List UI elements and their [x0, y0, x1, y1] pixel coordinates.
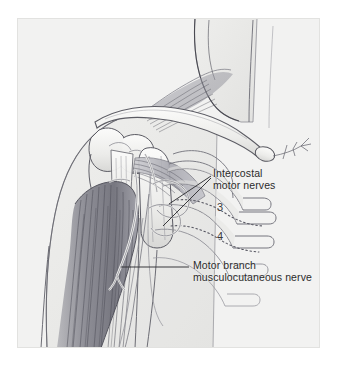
rib-number-3: 3 [217, 202, 223, 213]
anatomical-illustration-figure: Intercostal motor nerves Motor branch mu… [0, 0, 337, 365]
label-motor-branch-line1: Motor branch [193, 259, 312, 271]
label-intercostal-line2: motor nerves [213, 179, 275, 191]
label-motor-branch-line2: musculocutaneous nerve [193, 271, 312, 283]
label-intercostal-line1: Intercostal [213, 167, 275, 179]
label-intercostal-motor-nerves: Intercostal motor nerves [213, 167, 275, 191]
sternal-branches-group [273, 138, 311, 159]
rib-number-4: 4 [217, 231, 223, 242]
label-motor-branch-musculocutaneous-nerve: Motor branch musculocutaneous nerve [193, 259, 312, 283]
illustration-panel: Intercostal motor nerves Motor branch mu… [17, 18, 320, 348]
